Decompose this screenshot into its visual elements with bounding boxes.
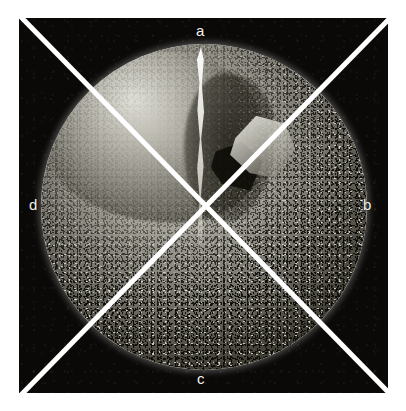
micrograph-panel — [19, 18, 388, 393]
edge-vignette — [41, 44, 367, 370]
quadrant-label-b: b — [363, 197, 371, 212]
quadrant-label-a: a — [196, 23, 204, 38]
quadrant-label-d: d — [29, 197, 37, 212]
spherical-specimen — [41, 44, 367, 370]
micrograph-figure: a b c d — [0, 0, 406, 411]
quadrant-label-c: c — [197, 371, 205, 386]
